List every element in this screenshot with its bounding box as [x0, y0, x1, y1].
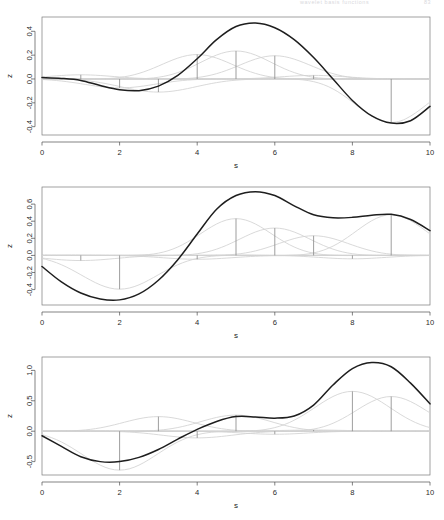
running-head-page-number: 83 [424, 0, 431, 5]
plot-svg-2: 0246810s-0.4-0.20.00.20.40.6z [0, 178, 444, 348]
y-axis-label: z [5, 414, 14, 418]
y-tick-label: 0.0 [25, 250, 34, 261]
chart-panel-3: 0246810s-0.50.00.51.0z [0, 348, 444, 518]
x-axis-label: s [234, 161, 238, 170]
x-tick-label: 4 [195, 148, 199, 157]
y-tick-label: 0.6 [25, 199, 34, 210]
running-head-title: wavelet basis functions [300, 0, 369, 5]
x-tick-label: 0 [40, 488, 44, 497]
x-tick-label: 2 [117, 318, 121, 327]
y-tick-label: -0.4 [25, 283, 34, 296]
y-tick-label: 0.0 [25, 74, 34, 85]
y-tick-label: -0.5 [25, 455, 34, 468]
x-axis-label: s [234, 331, 238, 340]
y-tick-label: -0.2 [25, 96, 34, 109]
x-tick-label: 8 [350, 488, 354, 497]
y-tick-label: -0.2 [25, 266, 34, 279]
y-tick-label: 0.2 [25, 50, 34, 61]
x-tick-label: 10 [426, 318, 434, 327]
y-tick-label: 0.4 [25, 216, 34, 227]
x-tick-label: 6 [273, 148, 277, 157]
x-tick-label: 0 [40, 318, 44, 327]
y-tick-label: 0.5 [25, 396, 34, 407]
y-tick-label: 0.2 [25, 233, 34, 244]
x-tick-label: 0 [40, 148, 44, 157]
x-tick-label: 2 [117, 148, 121, 157]
chart-panel-2: 0246810s-0.4-0.20.00.20.40.6z [0, 178, 444, 348]
running-head: wavelet basis functions 83 [0, 0, 444, 8]
basis-curve [42, 255, 430, 289]
basis-curve [42, 431, 430, 438]
x-tick-label: 8 [350, 318, 354, 327]
x-tick-label: 4 [195, 488, 199, 497]
y-tick-label: 0.4 [25, 26, 34, 37]
spike-group [81, 51, 391, 123]
plot-svg-1: 0246810s-0.4-0.20.00.20.4z [0, 8, 444, 178]
chart-panel-1: 0246810s-0.4-0.20.00.20.4z [0, 8, 444, 178]
x-tick-label: 4 [195, 318, 199, 327]
x-tick-label: 8 [350, 148, 354, 157]
x-axis-label: s [234, 501, 238, 510]
x-tick-label: 10 [426, 148, 434, 157]
figure-page: wavelet basis functions 83 0246810s-0.4-… [0, 0, 444, 520]
x-tick-label: 2 [117, 488, 121, 497]
basis-curve [42, 431, 430, 470]
y-axis-label: z [5, 74, 14, 78]
y-tick-label: 0.0 [25, 426, 34, 437]
x-tick-label: 6 [273, 488, 277, 497]
y-tick-label: -0.4 [25, 120, 34, 133]
y-tick-label: 1.0 [25, 365, 34, 376]
plot-svg-3: 0246810s-0.50.00.51.0z [0, 348, 444, 518]
resultant-curve [42, 362, 430, 462]
y-axis-label: z [5, 244, 14, 248]
x-tick-label: 6 [273, 318, 277, 327]
x-tick-label: 10 [426, 488, 434, 497]
